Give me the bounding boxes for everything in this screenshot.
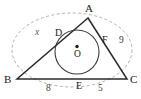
triangle-abc	[17, 18, 127, 79]
measure-label-side-ab: x	[35, 28, 39, 38]
figure-canvas	[0, 0, 141, 99]
incenter-label-o: O	[74, 50, 81, 60]
tangent-label-d: D	[55, 28, 62, 38]
measure-label-segment-ec: 5	[98, 84, 103, 94]
incenter-dot	[75, 45, 78, 48]
tangent-label-f: F	[102, 35, 108, 45]
vertex-label-a: A	[85, 3, 93, 14]
circumscribed-circle-dashed	[12, 13, 132, 87]
vertex-label-c: C	[130, 74, 137, 85]
measure-label-segment-be: 8	[46, 84, 51, 94]
vertex-label-b: B	[4, 74, 11, 85]
tangent-label-e: E	[76, 81, 82, 91]
measure-label-side-ac: 9	[119, 36, 124, 46]
geometry-figure: A B C D F E O x 9 8 5	[0, 0, 141, 99]
